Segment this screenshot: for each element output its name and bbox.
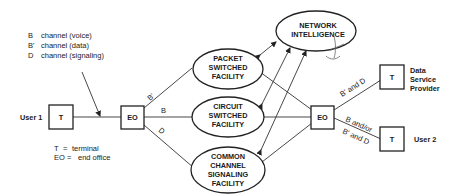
link-ccs-eo [262, 123, 312, 162]
legend-code-b: B [28, 31, 33, 40]
legend-desc-d: channel (signaling) [41, 51, 104, 60]
label-to-dsp: B' and D [338, 76, 367, 99]
dsp-line2: Service [410, 75, 436, 84]
right-end-office: EO [311, 106, 334, 129]
dsp-line1: Data [410, 66, 427, 75]
user1-terminal: User 1 T [20, 105, 73, 129]
eo-right-label: EO [317, 113, 328, 122]
abbr-eo-desc: end office [78, 153, 110, 162]
user2-label: User 2 [414, 135, 436, 144]
label-bprime-left: B' [146, 91, 157, 102]
terminal-user2-label: T [390, 135, 395, 144]
packet-switched-facility-node: PACKET SWITCHED FACILITY [193, 49, 263, 89]
abbr-t: T [54, 144, 59, 153]
ni-line2: INTELLIGENCE [291, 30, 345, 39]
user2-terminal: T User 2 [380, 127, 436, 151]
terminal-dsp-label: T [390, 73, 395, 82]
abbr-eo: EO [54, 153, 65, 162]
abbreviation-legend: T = terminal EO = end office [54, 144, 110, 162]
data-service-provider-terminal: T Data Service Provider [380, 65, 440, 93]
common-channel-signaling-facility-node: COMMON CHANNEL SIGNALING FACILITY [191, 147, 265, 193]
ccs-line3: SIGNALING [208, 170, 249, 179]
legend-code-bprime: B' [28, 41, 35, 50]
ccs-line2: CHANNEL [210, 161, 246, 170]
legend-code-d: D [28, 51, 34, 60]
abbr-t-desc: terminal [72, 144, 99, 153]
packet-line1: PACKET [213, 54, 243, 63]
left-end-office: EO [121, 106, 144, 129]
circuit-line1: CIRCUIT [213, 102, 243, 111]
eo-left-label: EO [127, 113, 138, 122]
network-intelligence-node: NETWORK INTELLIGENCE [276, 11, 356, 51]
packet-line2: SWITCHED [209, 63, 248, 72]
ccs-line1: COMMON [211, 152, 245, 161]
link-ni-packet [260, 42, 276, 55]
isdn-diagram: B channel (voice) B' channel (data) D ch… [0, 0, 464, 195]
link-packet-eo [260, 72, 312, 110]
dsp-line3: Provider [410, 84, 440, 93]
legend-desc-bprime: channel (data) [41, 41, 89, 50]
terminal1-label: T [59, 113, 64, 122]
label-d-left: D [157, 126, 167, 137]
circuit-line2: SWITCHED [209, 111, 248, 120]
legend-pointer-arrow [82, 72, 100, 116]
abbr-t-eq: = [63, 144, 68, 153]
user1-label: User 1 [20, 113, 42, 122]
link-eo-ccs [144, 125, 194, 168]
ccs-line4: FACILITY [212, 179, 245, 188]
abbr-eo-eq: = [67, 153, 72, 162]
circuit-switched-facility-node: CIRCUIT SWITCHED FACILITY [192, 97, 264, 137]
channel-legend: B channel (voice) B' channel (data) D ch… [28, 31, 104, 60]
packet-line3: FACILITY [212, 72, 245, 81]
circuit-line3: FACILITY [212, 120, 245, 129]
ni-line1: NETWORK [299, 21, 337, 30]
label-b-left: B [161, 106, 166, 115]
legend-desc-b: channel (voice) [41, 31, 92, 40]
